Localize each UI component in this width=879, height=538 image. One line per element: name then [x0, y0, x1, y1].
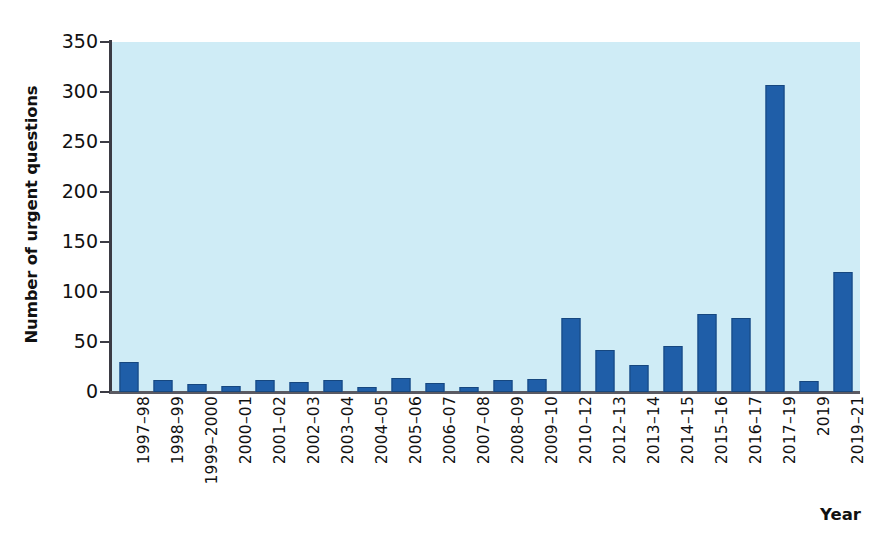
x-axis-tick-label: 2008–09 — [509, 396, 527, 464]
x-axis-tick-label-wrap: 2017–19 — [781, 396, 799, 464]
x-axis-tick-label: 1999–2000 — [203, 396, 221, 484]
x-axis-tick-label: 2003–04 — [339, 396, 357, 464]
bar-slot — [486, 42, 520, 392]
y-axis-tick — [100, 191, 110, 193]
x-axis-tick-label-wrap: 2019–21 — [849, 396, 867, 464]
bar-slot — [758, 42, 792, 392]
bar[interactable] — [358, 387, 377, 392]
bar[interactable] — [426, 383, 445, 392]
bar[interactable] — [120, 362, 139, 392]
x-axis-tick-label-wrap: 2013–14 — [645, 396, 663, 464]
x-axis-tick-label: 1997–98 — [135, 396, 153, 464]
x-axis-tick-label: 2016–17 — [747, 396, 765, 464]
bar[interactable] — [188, 384, 207, 392]
bar-slot — [554, 42, 588, 392]
bar-slot — [622, 42, 656, 392]
y-axis-tick-label: 200 — [46, 182, 98, 201]
bar[interactable] — [698, 314, 717, 392]
x-axis-tick-label-wrap: 1998–99 — [169, 396, 187, 464]
bar[interactable] — [664, 346, 683, 392]
bar-slot — [826, 42, 860, 392]
bar[interactable] — [596, 350, 615, 392]
x-axis-tick-label-wrap: 2008–09 — [509, 396, 527, 464]
y-axis-tick-label: 350 — [46, 32, 98, 51]
bar[interactable] — [290, 382, 309, 392]
x-axis-labels: 1997–981998–991999–20002000–012001–02200… — [112, 396, 860, 506]
y-axis-tick-label: 300 — [46, 82, 98, 101]
bar-slot — [180, 42, 214, 392]
x-axis-tick-label: 2000–01 — [237, 396, 255, 464]
bar[interactable] — [732, 318, 751, 392]
x-axis-tick-label: 2006–07 — [441, 396, 459, 464]
x-axis-tick-label: 1998–99 — [169, 396, 187, 464]
bar-slot — [112, 42, 146, 392]
bar-slot — [282, 42, 316, 392]
x-axis-tick-label: 2002–03 — [305, 396, 323, 464]
x-axis-tick-label-wrap: 2003–04 — [339, 396, 357, 464]
x-axis-tick-label-wrap: 2019 — [815, 396, 833, 436]
bar-slot — [656, 42, 690, 392]
x-axis-tick-label-wrap: 2005–06 — [407, 396, 425, 464]
x-axis-tick-label: 2019 — [815, 396, 833, 436]
y-axis-title: Number of urgent questions — [22, 45, 41, 385]
bar[interactable] — [630, 365, 649, 392]
bar[interactable] — [256, 380, 275, 392]
y-axis-tick-label: 100 — [46, 282, 98, 301]
x-axis-tick-label: 2019–21 — [849, 396, 867, 464]
x-axis-tick-label: 2017–19 — [781, 396, 799, 464]
y-axis-tick — [100, 91, 110, 93]
x-axis-tick-label-wrap: 2006–07 — [441, 396, 459, 464]
y-axis-tick — [100, 241, 110, 243]
bar-slot — [248, 42, 282, 392]
bar-slot — [418, 42, 452, 392]
x-axis-tick-label-wrap: 2007–08 — [475, 396, 493, 464]
x-axis-tick-label: 2010–12 — [577, 396, 595, 464]
bars-layer — [112, 42, 860, 392]
x-axis-title: Year — [820, 505, 861, 524]
bar[interactable] — [834, 272, 853, 392]
bar[interactable] — [562, 318, 581, 392]
bar[interactable] — [222, 386, 241, 392]
x-axis-tick-label: 2009–10 — [543, 396, 561, 464]
bar-slot — [452, 42, 486, 392]
x-axis-tick-label: 2012–13 — [611, 396, 629, 464]
x-axis-tick-label-wrap: 2009–10 — [543, 396, 561, 464]
x-axis-tick-label: 2015–16 — [713, 396, 731, 464]
y-axis-tick-label: 150 — [46, 232, 98, 251]
x-axis-tick-label-wrap: 2015–16 — [713, 396, 731, 464]
x-axis-tick-label-wrap: 2004–05 — [373, 396, 391, 464]
bar[interactable] — [494, 380, 513, 392]
bar[interactable] — [154, 380, 173, 392]
bar-slot — [214, 42, 248, 392]
bar-chart: Number of urgent questions 0501001502002… — [0, 0, 879, 538]
bar[interactable] — [766, 85, 785, 392]
x-axis-tick-label: 2013–14 — [645, 396, 663, 464]
x-axis-tick-label: 2001–02 — [271, 396, 289, 464]
bar[interactable] — [528, 379, 547, 392]
bar-slot — [724, 42, 758, 392]
y-axis-tick — [100, 391, 110, 393]
y-axis-tick — [100, 341, 110, 343]
y-axis-tick — [100, 41, 110, 43]
x-axis-tick-label-wrap: 1999–2000 — [203, 396, 221, 484]
x-axis-tick-label-wrap: 2002–03 — [305, 396, 323, 464]
bar-slot — [588, 42, 622, 392]
bar-slot — [384, 42, 418, 392]
bar[interactable] — [392, 378, 411, 392]
bar[interactable] — [324, 380, 343, 392]
bar-slot — [520, 42, 554, 392]
bar[interactable] — [800, 381, 819, 392]
y-axis-tick-label: 50 — [46, 332, 98, 351]
y-axis-tick — [100, 291, 110, 293]
y-axis-tick-label: 0 — [46, 382, 98, 401]
x-axis-tick-label: 2005–06 — [407, 396, 425, 464]
y-axis-tick-label: 250 — [46, 132, 98, 151]
bar[interactable] — [460, 387, 479, 392]
bar-slot — [792, 42, 826, 392]
x-axis-tick-label-wrap: 2010–12 — [577, 396, 595, 464]
bar-slot — [316, 42, 350, 392]
x-axis-tick-label-wrap: 2016–17 — [747, 396, 765, 464]
x-axis-tick-label-wrap: 2000–01 — [237, 396, 255, 464]
bar-slot — [690, 42, 724, 392]
x-axis-tick-label-wrap: 2014–15 — [679, 396, 697, 464]
